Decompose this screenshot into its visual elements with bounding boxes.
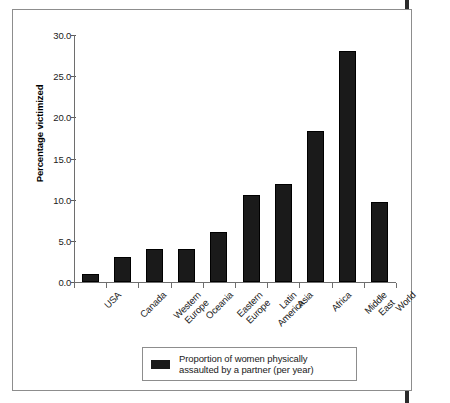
bar[interactable] [210,232,227,282]
x-axis-tick-label: World [394,290,418,314]
x-axis-tick-label: EasternEurope [235,290,272,327]
bar-slot [267,35,299,282]
x-axis-tick-labels: USACanadaWesternEuropeOceaniaEasternEuro… [74,288,396,348]
x-axis-tick-label: WesternEurope [172,290,211,329]
bar[interactable] [114,257,131,282]
bar-chart: Percentage victimized 0.05.010.015.020.0… [13,10,413,392]
bar[interactable] [146,249,163,282]
y-axis-tick-label: 25.0 [29,71,71,82]
bar-slot [74,35,106,282]
y-axis-tick-label: 10.0 [29,194,71,205]
bar[interactable] [275,184,292,282]
x-axis-tick-mark [396,283,397,288]
x-axis-tick-label: MiddleEast [363,290,397,324]
plot-area [74,35,396,283]
bar-slot [106,35,138,282]
bar[interactable] [82,274,99,282]
legend-label: Proportion of women physically assaulted… [179,353,314,376]
bar[interactable] [178,249,195,282]
bar[interactable] [339,51,356,282]
bar-slot [235,35,267,282]
bar-slot [332,35,364,282]
bar[interactable] [307,131,324,282]
bar[interactable] [243,195,260,282]
x-axis-tick-label: Canada [138,290,168,320]
page-margin-rule-bottom [405,391,409,403]
legend-label-line-2: assaulted by a partner (per year) [179,364,314,376]
bar-slot [299,35,331,282]
y-axis-tick-label: 30.0 [29,30,71,41]
figure-frame: Percentage victimized 0.05.010.015.020.0… [12,9,412,391]
bar-slot [171,35,203,282]
y-axis-tick-label: 20.0 [29,112,71,123]
chart-legend: Proportion of women physically assaulted… [142,347,357,381]
y-axis-tick-label: 5.0 [29,235,71,246]
bar-series [74,35,396,282]
legend-color-swatch [151,360,170,369]
y-axis-tick-labels: 0.05.010.015.020.025.030.0 [27,10,71,392]
y-axis-tick-label: 15.0 [29,153,71,164]
legend-label-line-1: Proportion of women physically [179,353,314,365]
x-axis-tick-label: Africa [330,290,354,314]
y-axis-tick-label: 0.0 [29,277,71,288]
bar-slot [203,35,235,282]
bar[interactable] [371,202,388,282]
bar-slot [364,35,396,282]
x-axis-tick-label: USA [103,290,124,311]
bar-slot [138,35,170,282]
